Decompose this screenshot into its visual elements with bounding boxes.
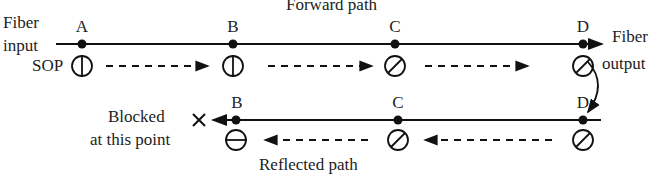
point-B-dot <box>229 40 238 49</box>
reflected-path-title: Reflected path <box>259 156 358 174</box>
reflected-point-B-dot <box>232 116 241 125</box>
optical-isolator-diagram <box>0 0 663 180</box>
point-A-label: A <box>76 18 88 36</box>
sop-C-diagonal-icon <box>385 56 405 76</box>
reflected-point-B-label: B <box>231 94 242 112</box>
sop-reflected-C-diagonal-icon <box>388 130 408 150</box>
reflected-point-C-label: C <box>392 94 403 112</box>
sop-A-vertical-icon <box>72 55 92 77</box>
point-D-dot <box>579 40 588 49</box>
blocked-label-2: at this point <box>90 131 170 149</box>
point-D-label: D <box>577 18 589 36</box>
sop-B-vertical-icon <box>223 55 243 77</box>
reflected-point-C-dot <box>394 116 403 125</box>
point-C-dot <box>391 40 400 49</box>
fiber-input-label-2: input <box>3 37 38 55</box>
reflected-point-D-label: D <box>577 94 589 112</box>
blocked-x-icon <box>193 114 205 126</box>
sop-label: SOP <box>32 57 63 75</box>
reflected-point-D-dot <box>579 116 588 125</box>
point-C-label: C <box>389 18 400 36</box>
fiber-output-label-1: Fiber <box>612 28 648 46</box>
point-B-label: B <box>227 18 238 36</box>
forward-path-title: Forward path <box>286 0 377 14</box>
sop-reflected-D-diagonal-icon <box>573 130 593 150</box>
fiber-output-label-2: output <box>602 55 645 73</box>
fiber-input-label-1: Fiber <box>3 14 39 32</box>
point-A-dot <box>78 40 87 49</box>
blocked-label-1: Blocked <box>108 108 165 126</box>
sop-reflected-B-horizontal-icon <box>225 130 247 150</box>
reflection-curve-arrow <box>588 62 598 112</box>
sop-D-diagonal-icon <box>573 56 593 76</box>
